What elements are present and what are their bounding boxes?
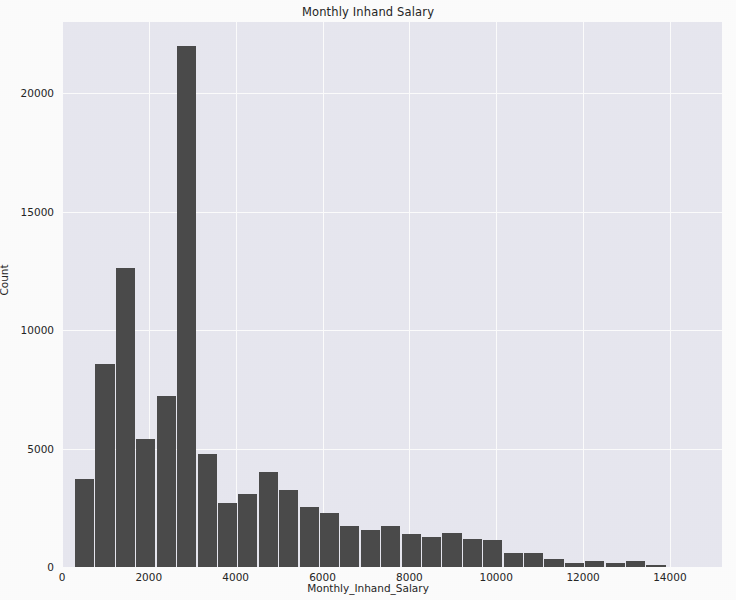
gridline-vertical bbox=[409, 22, 410, 567]
histogram-bar bbox=[198, 454, 217, 567]
histogram-bar bbox=[402, 534, 421, 567]
histogram-bar bbox=[463, 539, 482, 567]
histogram-bar bbox=[361, 530, 380, 567]
y-axis-tick-label: 5000 bbox=[27, 443, 54, 455]
gridline-vertical bbox=[496, 22, 497, 567]
histogram-bar bbox=[320, 513, 339, 568]
y-axis-label: Count bbox=[0, 250, 10, 310]
histogram-bar bbox=[524, 553, 543, 567]
gridline-horizontal bbox=[62, 93, 722, 94]
histogram-bar bbox=[75, 479, 94, 567]
histogram-bar bbox=[279, 490, 298, 567]
histogram-bar bbox=[483, 540, 502, 567]
histogram-bar bbox=[422, 537, 441, 567]
gridline-vertical bbox=[236, 22, 237, 567]
histogram-bar bbox=[259, 472, 278, 567]
plot-area bbox=[62, 22, 722, 567]
y-axis-tick-label: 20000 bbox=[21, 87, 54, 99]
gridline-horizontal bbox=[62, 212, 722, 213]
histogram-bar bbox=[381, 526, 400, 568]
histogram-bar bbox=[300, 507, 319, 567]
histogram-bar bbox=[442, 533, 461, 567]
gridline-horizontal bbox=[62, 330, 722, 331]
y-axis-tick-label: 10000 bbox=[21, 324, 54, 336]
histogram-bar bbox=[136, 439, 155, 567]
gridline-vertical bbox=[670, 22, 671, 567]
y-axis-tick-label: 15000 bbox=[21, 206, 54, 218]
histogram-figure: Monthly Inhand Salary 050001000015000200… bbox=[0, 0, 736, 600]
histogram-bar bbox=[116, 268, 135, 567]
histogram-bar bbox=[238, 494, 257, 568]
histogram-bar bbox=[95, 364, 114, 567]
gridline-vertical bbox=[62, 22, 63, 567]
histogram-bar bbox=[504, 553, 523, 567]
histogram-bar bbox=[157, 396, 176, 567]
histogram-bar bbox=[218, 503, 237, 567]
gridline-vertical bbox=[583, 22, 584, 567]
histogram-bar bbox=[177, 46, 196, 567]
histogram-bar bbox=[544, 559, 563, 567]
histogram-bar bbox=[340, 526, 359, 568]
page-title: Monthly Inhand Salary bbox=[0, 5, 736, 19]
x-axis-label: Monthly_Inhand_Salary bbox=[0, 582, 736, 594]
gridline-vertical bbox=[323, 22, 324, 567]
